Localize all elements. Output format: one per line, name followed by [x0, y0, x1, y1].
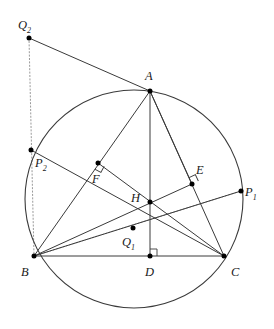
point-p2	[29, 148, 34, 153]
label-p2-subscript: 2	[43, 164, 47, 173]
label-p2-letter: P	[35, 156, 43, 170]
label-a: A	[145, 70, 153, 83]
label-q1: Q1	[122, 236, 135, 252]
dotted-Q2-B	[29, 38, 34, 256]
point-e	[190, 182, 195, 187]
label-q2-subscript: 2	[27, 26, 31, 35]
label-h: H	[131, 192, 140, 205]
label-e: E	[196, 164, 204, 177]
vertex-dots-layer	[27, 36, 244, 259]
point-c	[222, 254, 227, 259]
label-q2-letter: Q	[18, 18, 27, 32]
chord-FC	[98, 163, 224, 256]
label-b-letter: B	[21, 265, 29, 279]
chord-AE	[150, 91, 192, 184]
label-b: B	[21, 266, 29, 279]
label-h-letter: H	[131, 191, 140, 205]
solid-segments-layer	[29, 38, 241, 256]
point-a	[148, 89, 153, 94]
label-p1-letter: P	[245, 185, 253, 199]
point-b	[32, 254, 37, 259]
label-q2: Q2	[18, 19, 31, 35]
point-p1	[239, 189, 244, 194]
point-q2	[27, 36, 32, 41]
label-f: F	[92, 173, 100, 186]
cevian-AF-Q2	[29, 38, 150, 91]
point-f	[96, 161, 101, 166]
label-d-letter: D	[145, 265, 154, 279]
point-q1	[131, 226, 136, 231]
label-c-letter: C	[231, 265, 239, 279]
label-f-letter: F	[92, 172, 100, 186]
label-c: C	[231, 266, 239, 279]
label-e-letter: E	[196, 163, 204, 177]
label-q1-subscript: 1	[131, 243, 135, 252]
label-p1-subscript: 1	[253, 193, 257, 202]
geometry-figure: ABCDEFHP1P2Q1Q2	[0, 0, 274, 329]
label-a-letter: A	[145, 69, 153, 83]
point-h	[148, 200, 153, 205]
label-q1-letter: Q	[122, 235, 131, 249]
label-d: D	[145, 266, 154, 279]
point-d	[148, 254, 153, 259]
label-p2: P2	[35, 157, 47, 173]
label-p1: P1	[245, 186, 257, 202]
